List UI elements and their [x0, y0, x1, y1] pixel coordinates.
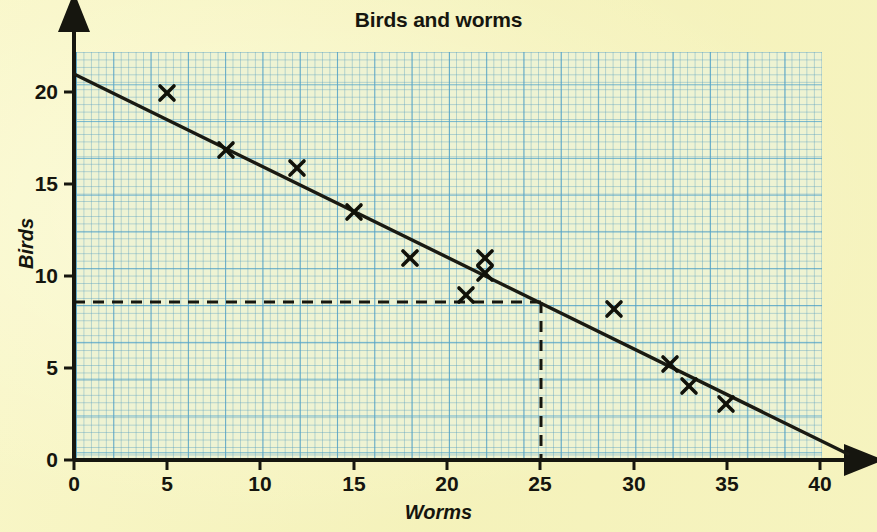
- data-point-marker: [607, 302, 621, 316]
- data-point-marker: [459, 288, 473, 302]
- x-tick-label: 20: [435, 472, 458, 496]
- y-tick-label: 0: [18, 448, 58, 472]
- data-point-marker: [719, 397, 733, 411]
- x-axis-label: Worms: [0, 501, 877, 524]
- x-tick-label: 10: [248, 472, 271, 496]
- data-point-marker: [160, 86, 174, 100]
- chart-page: Birds and worms: [0, 0, 877, 532]
- x-tick-label: 35: [715, 472, 738, 496]
- data-point-marker: [682, 379, 696, 393]
- data-point-marker: [478, 251, 492, 265]
- plot-canvas: [0, 0, 877, 532]
- x-tick-label: 0: [68, 472, 80, 496]
- y-tick-label: 15: [18, 172, 58, 196]
- x-tick-label: 40: [808, 472, 831, 496]
- x-tick-label: 30: [622, 472, 645, 496]
- y-axis-label: Birds: [15, 194, 38, 294]
- y-tick-label: 5: [18, 356, 58, 380]
- reading-guide-dashed-lines: [74, 302, 541, 460]
- data-points: [160, 86, 733, 411]
- data-point-marker: [290, 161, 304, 175]
- y-tick-label: 20: [18, 80, 58, 104]
- data-point-marker: [403, 251, 417, 265]
- x-tick-label: 5: [161, 472, 173, 496]
- x-tick-label: 15: [342, 472, 365, 496]
- x-tick-label: 25: [528, 472, 551, 496]
